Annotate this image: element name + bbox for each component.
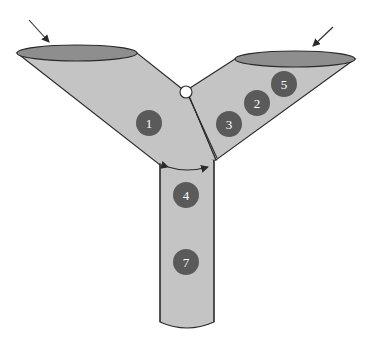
marker-label: 5 (281, 77, 288, 92)
left-inflow-arrow-icon (29, 20, 49, 42)
marker-2: 2 (244, 90, 270, 116)
marker-label: 2 (254, 96, 261, 111)
marker-label: 1 (146, 116, 153, 131)
marker-4: 4 (173, 182, 199, 208)
marker-label: 4 (183, 188, 190, 203)
right-inflow-arrow-icon (313, 27, 333, 46)
y-funnel-diagram: 1 3 2 5 4 7 (0, 0, 373, 345)
left-inlet-opening (17, 45, 137, 61)
marker-label: 7 (183, 255, 190, 270)
hinge-pivot-icon (180, 86, 192, 98)
marker-1: 1 (136, 110, 162, 136)
stem-top-fill (161, 160, 213, 170)
marker-3: 3 (216, 111, 242, 137)
marker-label: 3 (226, 117, 233, 132)
right-inlet-opening (235, 51, 355, 67)
marker-7: 7 (173, 249, 199, 275)
marker-5: 5 (271, 71, 297, 97)
left-inlet-tube (17, 53, 216, 165)
